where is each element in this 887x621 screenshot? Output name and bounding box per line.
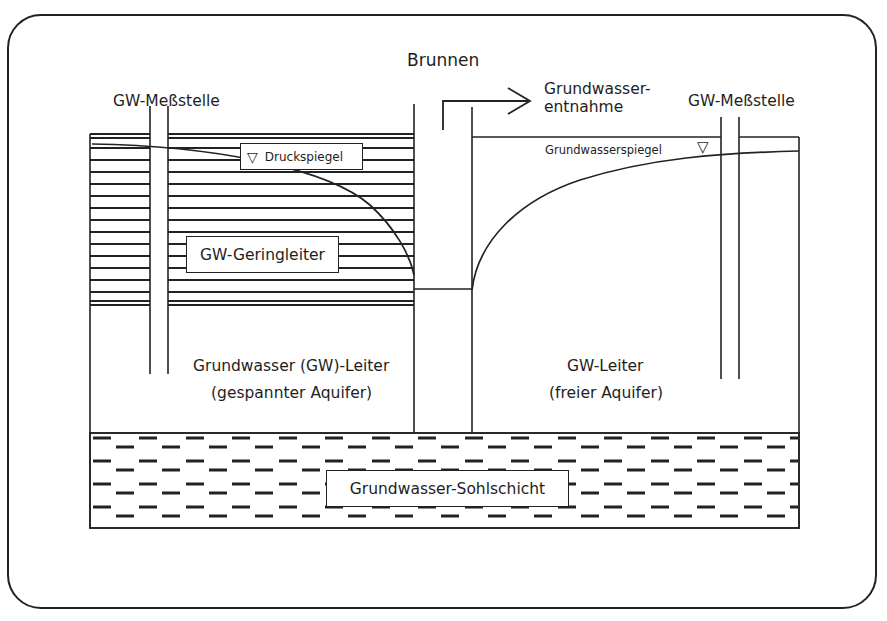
aquitard-label: GW-Geringleiter [200,246,325,264]
extraction-label-line1: Grundwasser- [544,80,651,98]
aquitard-label-box: GW-Geringleiter [186,236,339,273]
water-table-curve [472,151,799,290]
right-monitoring-well-label: GW-Meßstelle [688,92,795,110]
base-layer-label: Grundwasser-Sohlschicht [350,480,545,498]
base-layer-label-box: Grundwasser-Sohlschicht [326,470,569,507]
pressure-level-label-box: ▽ Druckspiegel [240,143,363,170]
level-marker-icon: ▽ [247,149,258,165]
well-title: Brunnen [407,50,479,70]
water-table-label: Grundwasserspiegel [545,143,662,157]
confined-aquifer-label-line1: Grundwasser (GW)-Leiter [193,357,389,375]
left-monitoring-well-label: GW-Meßstelle [113,92,220,110]
unconfined-aquifer-label-line1: GW-Leiter [567,357,644,375]
extraction-well [414,104,472,433]
extraction-label-line2: entnahme [544,98,623,116]
confined-aquifer-label-line2: (gespannter Aquifer) [211,384,372,402]
pressure-level-label: Druckspiegel [265,150,343,164]
unconfined-aquifer-label-line2: (freier Aquifer) [549,384,663,402]
water-table-marker-icon: ▽ [697,138,709,156]
